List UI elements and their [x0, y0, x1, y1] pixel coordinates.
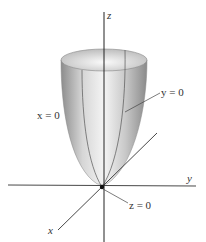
z0-leader-line: [103, 189, 128, 203]
y-axis-label: y: [186, 172, 192, 184]
x0-trace-label: x = 0: [37, 109, 60, 121]
origin-point: [100, 185, 104, 189]
x-axis-label: x: [47, 224, 53, 236]
y0-trace-label: y = 0: [161, 86, 184, 98]
paraboloid-diagram: z y x x = 0 y = 0 z = 0: [0, 0, 206, 242]
z0-trace-label: z = 0: [129, 199, 152, 211]
z-axis-label: z: [106, 9, 112, 21]
